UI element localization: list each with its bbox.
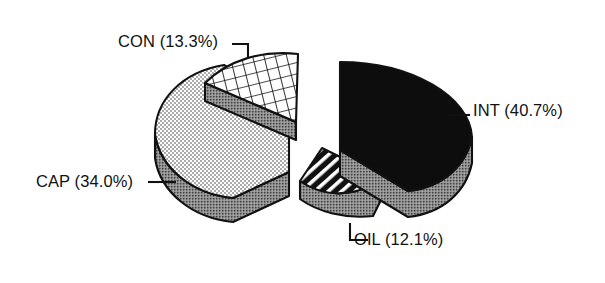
slice-label-con: CON (13.3%) — [118, 33, 218, 50]
pie-chart-canvas — [0, 0, 605, 283]
pie-chart-figure: CON (13.3%) INT (40.7%) CAP (34.0%) OIL … — [0, 0, 605, 283]
slice-label-cap: CAP (34.0%) — [36, 173, 133, 190]
slice-label-int: INT (40.7%) — [473, 102, 563, 119]
leader-line-con — [232, 44, 248, 58]
slice-label-oil: OIL (12.1%) — [354, 231, 443, 248]
